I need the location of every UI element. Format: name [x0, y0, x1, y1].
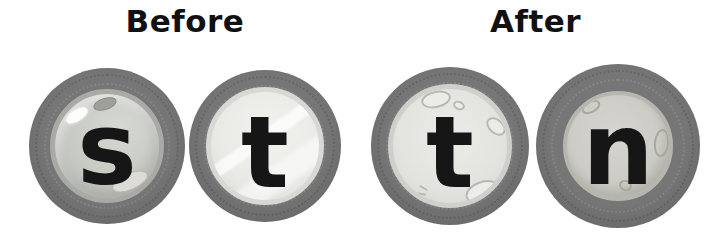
token-letter: t: [241, 103, 289, 203]
token-disc: t: [206, 87, 324, 205]
sparkle-dash-icon: [417, 192, 426, 196]
letter-token-s-before: s: [29, 68, 185, 224]
token-letter: t: [426, 103, 474, 203]
letter-token-t-after: t: [371, 67, 529, 225]
token-disc: t: [388, 84, 512, 208]
token-letter: s: [77, 100, 137, 200]
letter-token-t-before: t: [189, 70, 341, 222]
before-after-figure: Before After s t t: [0, 0, 714, 239]
token-disc: s: [50, 89, 164, 203]
token-disc: n: [563, 91, 673, 201]
bubble-icon: [483, 114, 509, 140]
after-heading: After: [371, 3, 700, 39]
bubble-icon: [653, 128, 671, 157]
letter-token-n-after: n: [536, 64, 700, 228]
before-heading: Before: [29, 3, 341, 39]
token-letter: n: [582, 100, 653, 200]
